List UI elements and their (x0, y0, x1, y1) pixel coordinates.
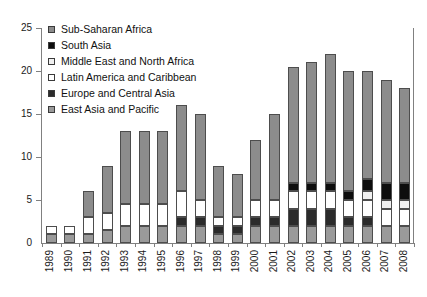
bar-segment (195, 114, 206, 200)
legend-swatch-icon (48, 42, 55, 49)
bar-segment (102, 230, 113, 243)
legend-item: South Asia (48, 39, 196, 52)
y-axis-tick-label: 15 (8, 109, 32, 119)
x-axis-tick-label: 1998 (213, 250, 223, 272)
bar-segment (325, 183, 336, 192)
x-axis-tick-mark (284, 243, 285, 247)
legend-swatch-icon (48, 26, 55, 33)
bar-segment (176, 191, 187, 217)
x-axis-tick-label: 1989 (45, 250, 55, 272)
bar-segment (381, 226, 392, 243)
bar-segment (269, 226, 280, 243)
x-axis-tick-mark (209, 243, 210, 247)
stacked-bar-chart: 0510152025 19891990199119921993199419951… (0, 0, 427, 297)
bar-segment (362, 71, 373, 179)
legend-item-label: Sub-Saharan Africa (61, 24, 152, 35)
bar-segment (139, 226, 150, 243)
bar-segment (362, 217, 373, 226)
x-axis-tick-label: 2002 (287, 250, 297, 272)
bar-segment (83, 234, 94, 243)
x-axis-tick-mark (377, 243, 378, 247)
bar-segment (232, 226, 243, 235)
bar-segment (232, 174, 243, 217)
bar-column (343, 28, 354, 243)
y-axis-tick-label: 5 (8, 195, 32, 205)
bar-segment (288, 209, 299, 226)
bar-segment (157, 204, 168, 226)
bar-segment (381, 200, 392, 209)
bar-segment (306, 209, 317, 226)
bar-segment (399, 88, 410, 183)
bar-segment (325, 226, 336, 243)
bar-column (325, 28, 336, 243)
x-axis-tick-label: 1999 (231, 250, 241, 272)
legend-item-label: Latin America and Caribbean (61, 72, 196, 83)
bar-segment (399, 200, 410, 209)
bar-segment (288, 67, 299, 183)
y-axis-tick-label: 20 (8, 66, 32, 76)
legend-swatch-icon (48, 58, 55, 65)
bar-segment (381, 209, 392, 226)
x-axis-tick-label: 1997 (194, 250, 204, 272)
bar-segment (232, 217, 243, 226)
y-axis-tick-label: 0 (8, 238, 32, 248)
bar-segment (176, 226, 187, 243)
bar-segment (306, 191, 317, 208)
bar-segment (343, 200, 354, 217)
bar-column (250, 28, 261, 243)
bar-segment (213, 166, 224, 218)
y-axis-tick-label: 25 (8, 23, 32, 33)
bar-column (288, 28, 299, 243)
x-axis-tick-label: 1990 (64, 250, 74, 272)
bar-segment (250, 140, 261, 200)
y-axis-tick-label: 10 (8, 152, 32, 162)
bar-segment (195, 226, 206, 243)
x-axis-tick-label: 2001 (269, 250, 279, 272)
bar-segment (213, 234, 224, 243)
x-axis-tick-mark (414, 243, 415, 247)
bar-segment (362, 200, 373, 217)
y-axis-tick-mark (36, 157, 41, 158)
bar-segment (343, 226, 354, 243)
bar-segment (157, 131, 168, 204)
bar-column (306, 28, 317, 243)
bar-segment (288, 191, 299, 208)
x-axis-tick-mark (191, 243, 192, 247)
chart-legend: Sub-Saharan AfricaSouth AsiaMiddle East … (48, 23, 196, 119)
bar-segment (157, 226, 168, 243)
bar-segment (381, 183, 392, 200)
x-axis-tick-mark (265, 243, 266, 247)
x-axis-tick-mark (395, 243, 396, 247)
bar-column (269, 28, 280, 243)
bar-segment (306, 226, 317, 243)
bar-segment (250, 226, 261, 243)
x-axis-tick-label: 1992 (101, 250, 111, 272)
y-axis-tick-mark (36, 71, 41, 72)
bar-segment (269, 217, 280, 226)
x-axis-tick-label: 2004 (324, 250, 334, 272)
bar-segment (399, 209, 410, 226)
bar-segment (83, 191, 94, 217)
bar-segment (195, 200, 206, 217)
x-axis-tick-mark (358, 243, 359, 247)
x-axis-tick-mark (135, 243, 136, 247)
bar-segment (120, 204, 131, 226)
x-axis-tick-mark (42, 243, 43, 247)
x-axis-tick-label: 2006 (362, 250, 372, 272)
x-axis-tick-mark (79, 243, 80, 247)
bar-segment (325, 191, 336, 208)
legend-item: Europe and Central Asia (48, 87, 196, 100)
x-axis-tick-mark (228, 243, 229, 247)
bar-column (362, 28, 373, 243)
bar-segment (399, 226, 410, 243)
bar-segment (213, 217, 224, 226)
bar-segment (250, 217, 261, 226)
x-axis-tick-label: 1994 (138, 250, 148, 272)
y-axis-tick-mark (36, 200, 41, 201)
bar-segment (64, 234, 75, 243)
legend-item-label: South Asia (61, 40, 111, 51)
bar-segment (250, 200, 261, 217)
bar-segment (288, 226, 299, 243)
y-axis-tick-mark (36, 114, 41, 115)
bar-segment (362, 191, 373, 200)
